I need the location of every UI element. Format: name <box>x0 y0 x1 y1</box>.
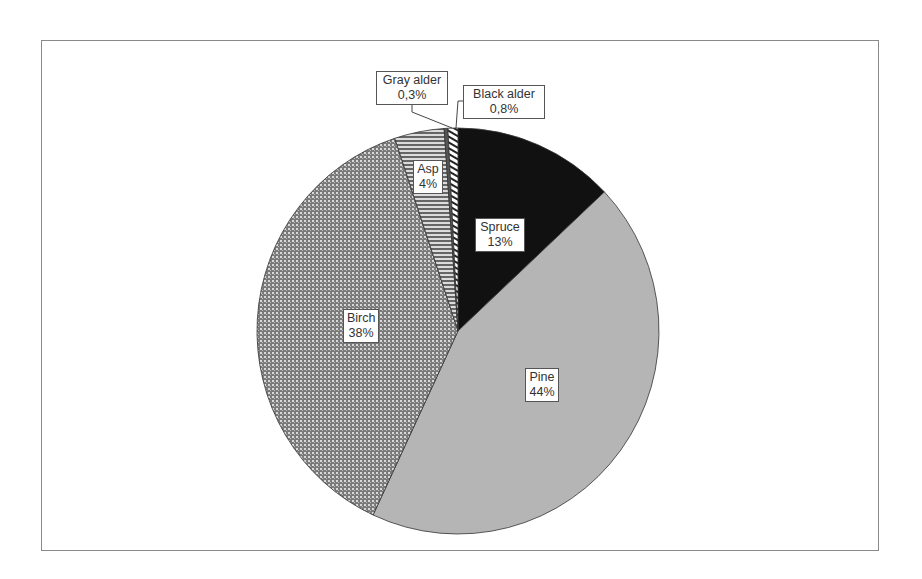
label-spruce: Spruce 13% <box>475 218 525 252</box>
gray-alder-leader <box>412 105 452 128</box>
label-birch: Birch 38% <box>343 309 379 343</box>
label-name: Spruce <box>479 220 521 235</box>
label-asp: Asp 4% <box>413 160 443 194</box>
label-name: Pine <box>529 370 555 385</box>
label-name: Black alder <box>467 87 541 102</box>
label-name: Asp <box>417 162 439 177</box>
label-pct: 44% <box>529 385 555 400</box>
label-name: Birch <box>347 311 375 326</box>
pie-chart <box>0 0 922 579</box>
label-pine: Pine 44% <box>525 368 559 402</box>
label-pct: 38% <box>347 326 375 341</box>
label-black-alder: Black alder 0,8% <box>463 85 545 119</box>
label-pct: 0,8% <box>467 102 541 117</box>
black-alder-leader <box>456 101 463 128</box>
label-pct: 4% <box>417 177 439 192</box>
label-gray-alder: Gray alder 0,3% <box>376 71 448 105</box>
label-pct: 0,3% <box>380 88 444 103</box>
label-name: Gray alder <box>380 73 444 88</box>
label-pct: 13% <box>479 235 521 250</box>
